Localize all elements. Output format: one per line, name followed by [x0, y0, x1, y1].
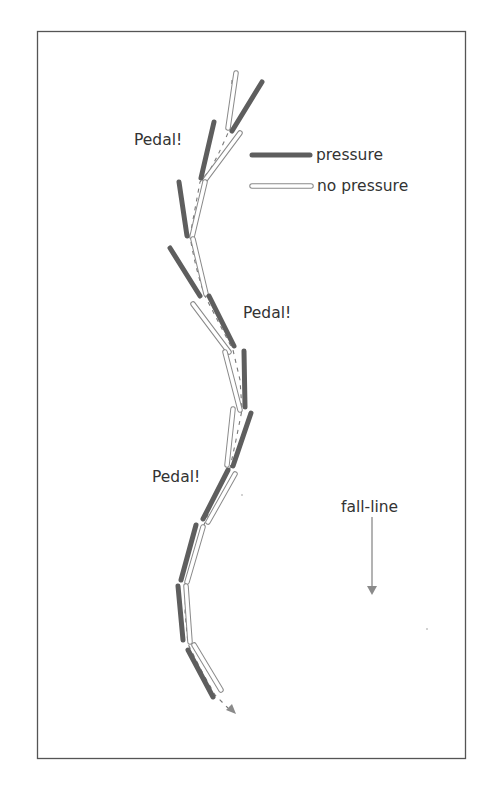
speck [241, 494, 243, 496]
ski-turn-diagram: Pedal! Pedal! Pedal! pressure no pressur… [0, 0, 494, 790]
pedal-label-1: Pedal! [134, 131, 182, 149]
pedal-label-3: Pedal! [152, 468, 200, 486]
legend-pressure-label: pressure [316, 146, 383, 164]
diagram-frame [38, 32, 466, 759]
fall-line-label: fall-line [341, 498, 398, 516]
pedal-label-2: Pedal! [243, 304, 291, 322]
legend-no-pressure-label: no pressure [317, 177, 408, 195]
speck [426, 628, 428, 630]
